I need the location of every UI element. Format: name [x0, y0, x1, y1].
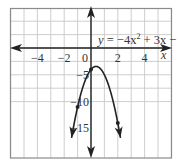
data-point [116, 121, 120, 125]
data-point [89, 67, 93, 71]
tick-labels: −4−2024−5−10−15 [31, 51, 148, 135]
parabola-graph: −4−2024−5−10−15 y = −4x2 + 3x − 4 x [0, 0, 178, 164]
axes [10, 6, 172, 158]
x-tick-label: 4 [142, 51, 148, 65]
x-tick-label: 2 [115, 51, 121, 65]
equation-label: y = −4x2 + 3x − 4 [96, 32, 178, 47]
data-point [76, 105, 80, 109]
x-tick-label: 0 [82, 51, 88, 65]
x-axis-label: x [160, 48, 167, 62]
x-tick-label: −4 [31, 51, 44, 65]
x-tick-label: −2 [58, 51, 71, 65]
